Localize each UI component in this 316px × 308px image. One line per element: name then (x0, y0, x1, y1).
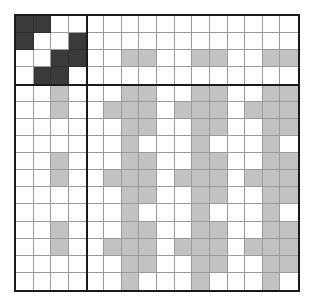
matrix-cell (175, 16, 193, 33)
matrix-cell (122, 119, 140, 136)
matrix-cell (87, 136, 105, 153)
matrix-cell (122, 16, 140, 33)
matrix-cell (69, 136, 87, 153)
matrix-cell (122, 85, 140, 102)
matrix-cell (51, 67, 69, 84)
matrix-cell (157, 256, 175, 273)
matrix-cell (16, 119, 34, 136)
matrix-cell (34, 67, 52, 84)
matrix-cell (263, 170, 281, 187)
matrix-cell (263, 50, 281, 67)
matrix-cell (104, 170, 122, 187)
matrix-cell (263, 222, 281, 239)
matrix-cell (34, 119, 52, 136)
matrix-cell (157, 153, 175, 170)
matrix-cell (228, 85, 246, 102)
matrix-cell (228, 273, 246, 290)
matrix-cell (69, 204, 87, 221)
matrix-cell (157, 273, 175, 290)
matrix-cell (51, 102, 69, 119)
matrix-cell (263, 119, 281, 136)
matrix-cell (192, 187, 210, 204)
matrix-cell (122, 153, 140, 170)
matrix-cell (139, 50, 157, 67)
matrix-cell (122, 239, 140, 256)
matrix-cell (192, 153, 210, 170)
matrix-cell (104, 16, 122, 33)
matrix-cell (16, 50, 34, 67)
matrix-cell (139, 187, 157, 204)
matrix-cell (280, 33, 298, 50)
matrix-cell (34, 50, 52, 67)
matrix-cell (228, 119, 246, 136)
matrix-cell (104, 204, 122, 221)
matrix-grid (16, 16, 298, 290)
matrix-cell (157, 204, 175, 221)
matrix-cell (16, 204, 34, 221)
matrix-cell (210, 153, 228, 170)
matrix-cell (139, 153, 157, 170)
matrix-cell (104, 33, 122, 50)
matrix-cell (175, 273, 193, 290)
matrix-cell (122, 204, 140, 221)
matrix-cell (34, 170, 52, 187)
matrix-cell (139, 204, 157, 221)
matrix-cell (122, 256, 140, 273)
matrix-cell (139, 273, 157, 290)
matrix-cell (122, 67, 140, 84)
matrix-cell (210, 239, 228, 256)
matrix-cell (175, 187, 193, 204)
matrix-cell (16, 170, 34, 187)
matrix-cell (34, 222, 52, 239)
matrix-cell (104, 239, 122, 256)
matrix-cell (122, 33, 140, 50)
matrix-cell (157, 239, 175, 256)
matrix-cell (87, 222, 105, 239)
matrix-cell (104, 136, 122, 153)
matrix-cell (157, 119, 175, 136)
matrix-cell (51, 33, 69, 50)
matrix-cell (87, 67, 105, 84)
matrix-cell (51, 204, 69, 221)
matrix-cell (139, 136, 157, 153)
matrix-cell (157, 102, 175, 119)
matrix-cell (51, 85, 69, 102)
matrix-cell (34, 239, 52, 256)
matrix-cell (69, 170, 87, 187)
matrix-cell (228, 187, 246, 204)
matrix-cell (87, 273, 105, 290)
matrix-cell (192, 273, 210, 290)
matrix-cell (69, 67, 87, 84)
matrix-cell (245, 50, 263, 67)
matrix-cell (210, 187, 228, 204)
matrix-cell (16, 85, 34, 102)
matrix-cell (280, 102, 298, 119)
matrix-cell (175, 102, 193, 119)
matrix-cell (263, 256, 281, 273)
matrix-cell (104, 222, 122, 239)
matrix-cell (192, 204, 210, 221)
matrix-cell (16, 273, 34, 290)
matrix-cell (16, 16, 34, 33)
matrix-cell (157, 33, 175, 50)
matrix-cell (280, 85, 298, 102)
matrix-cell (69, 222, 87, 239)
matrix-cell (245, 119, 263, 136)
matrix-cell (192, 222, 210, 239)
matrix-cell (122, 50, 140, 67)
matrix-cell (69, 33, 87, 50)
matrix-cell (280, 239, 298, 256)
matrix-cell (245, 256, 263, 273)
matrix-cell (263, 102, 281, 119)
matrix-cell (139, 239, 157, 256)
matrix-cell (263, 187, 281, 204)
matrix-cell (69, 50, 87, 67)
matrix-cell (245, 239, 263, 256)
matrix-cell (210, 222, 228, 239)
matrix-cell (157, 170, 175, 187)
matrix-cell (104, 256, 122, 273)
matrix-cell (210, 67, 228, 84)
matrix-cell (210, 16, 228, 33)
matrix-cell (245, 273, 263, 290)
matrix-cell (34, 273, 52, 290)
